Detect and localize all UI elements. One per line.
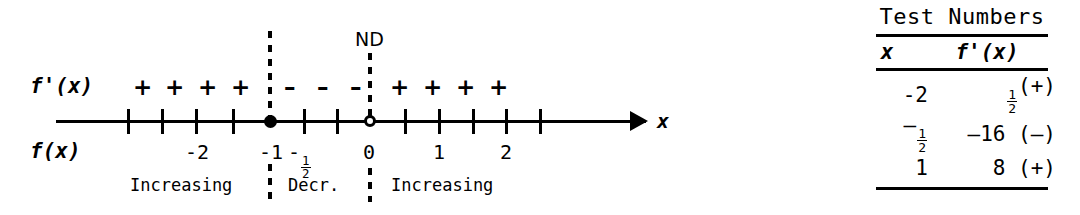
tick-mark [232,109,235,134]
tick-label-minus-two: -2 [185,142,209,162]
sign-plus-left-4: + [231,76,250,99]
tick-mark [438,109,441,134]
cell-x-fraction: 12 [917,127,927,155]
cell-x-value: 1 [846,156,938,180]
sign-plus-right-4: + [489,76,508,99]
tick-label-two: 2 [500,142,512,162]
tick-mark [336,109,339,134]
tick-mark [539,109,542,134]
tick-label-minus-one: -1 [259,142,283,162]
sign-plus-right-2: + [423,76,442,99]
cell-x-value: –12 [846,113,938,154]
cell-x-denominator: 2 [917,140,927,154]
tick-mark [505,109,508,134]
table-row: 1 8 (+) [846,153,1078,183]
interval-label-left: Increasing [130,177,232,194]
minus-half-sign: - [288,140,300,164]
cell-fprime-sign: (+) [1018,74,1056,98]
sign-minus-mid-3: – [350,76,362,99]
cell-x-sign: – [904,113,917,137]
tick-label-one: 1 [433,142,445,162]
table-rule-bottom [876,187,1048,190]
tick-mark [161,109,164,134]
tick-mark [404,109,407,134]
tick-label-zero: 0 [363,142,375,162]
tick-mark [127,109,130,134]
dashed-separator-at-zero-lower [368,168,372,202]
table-header-row: x f'(x) [846,40,1078,64]
sign-plus-left-3: + [198,76,217,99]
table-rule-header [876,68,1048,71]
test-numbers-table: Test Numbers x f'(x) -2 12(+) –12 –16 (–… [846,4,1078,190]
critical-point-open-dot [364,115,376,127]
column-header-fprime-x: f'(x) [928,40,1046,64]
cell-fprime-value: –16 (–) [938,122,1060,146]
one-half-numerator: 1 [1007,88,1017,101]
sign-minus-mid-1: – [284,76,296,99]
tick-mark [195,109,198,134]
dashed-separator-at-minus-one-upper [268,31,272,121]
table-row: –12 –16 (–) [846,117,1078,151]
cell-fprime-value: 12(+) [938,74,1060,115]
cell-x-numerator: 1 [917,127,927,140]
tick-mark [303,109,306,134]
fprime-row-label: f'(x) [30,76,93,97]
interval-label-right: Increasing [391,177,493,194]
nd-label: ND [355,30,384,49]
number-line-axis [56,120,646,123]
dashed-separator-at-minus-one-lower [268,164,272,202]
cell-fprime-value: 8 (+) [938,156,1060,180]
sign-chart-figure: f'(x) f(x) + + + + – – – + + + + ND x [0,0,1080,215]
dashed-separator-at-zero-upper [368,53,372,121]
interval-label-middle: Decr. [288,177,339,194]
critical-point-filled-dot [264,115,277,128]
cell-x-value: -2 [846,83,938,107]
one-half-fraction: 12 [1007,88,1017,116]
axis-variable-label: x [657,111,669,131]
sign-plus-left-1: + [133,76,152,99]
test-numbers-title: Test Numbers [846,4,1078,29]
table-row: -2 12(+) [846,79,1078,111]
one-half-denominator: 2 [1007,101,1017,115]
table-rule-top [876,34,1048,37]
sign-plus-right-3: + [456,76,475,99]
f-row-label: f(x) [30,141,81,162]
axis-arrow-icon [630,111,648,131]
sign-plus-right-1: + [390,76,409,99]
sign-plus-left-2: + [165,76,184,99]
sign-minus-mid-2: – [317,76,329,99]
tick-mark [472,109,475,134]
column-header-x: x [846,40,928,64]
